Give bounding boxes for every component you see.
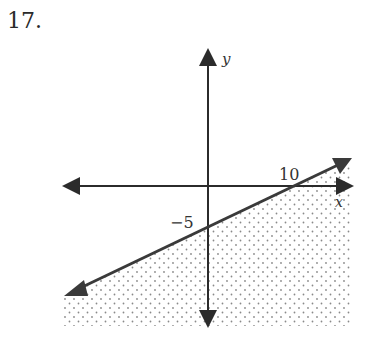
- x-axis-label: x: [335, 194, 343, 210]
- y-axis-up-arrow-icon: [199, 48, 217, 66]
- x-axis-left-arrow-icon: [62, 177, 80, 195]
- x-intercept-label: 10: [279, 165, 299, 184]
- inequality-graph: y x 10 −5: [0, 0, 390, 364]
- y-intercept-label: −5: [170, 213, 194, 232]
- y-axis-label: y: [221, 50, 231, 68]
- line-left-arrow-icon: [64, 280, 88, 296]
